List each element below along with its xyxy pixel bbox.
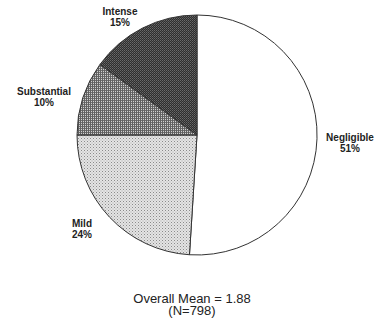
caption-n: (N=798) xyxy=(0,304,384,317)
label-intense: Intense 15% xyxy=(95,6,145,28)
label-intense-name: Intense xyxy=(95,6,145,17)
label-substantial-name: Substantial xyxy=(12,86,76,97)
label-substantial-pct: 10% xyxy=(12,97,76,108)
label-substantial: Substantial 10% xyxy=(12,86,76,108)
pie-chart xyxy=(0,0,384,328)
label-mild: Mild 24% xyxy=(72,218,112,240)
label-mild-pct: 24% xyxy=(72,229,112,240)
pie-slice-negligible xyxy=(189,15,317,255)
label-mild-name: Mild xyxy=(72,218,112,229)
label-negligible-pct: 51% xyxy=(320,143,380,154)
label-negligible-name: Negligible xyxy=(320,132,380,143)
label-negligible: Negligible 51% xyxy=(320,132,380,154)
label-intense-pct: 15% xyxy=(95,17,145,28)
